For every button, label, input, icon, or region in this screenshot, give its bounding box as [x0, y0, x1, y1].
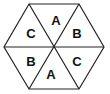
hexagon-diagram: A B C A B C — [0, 0, 110, 94]
triangle-bottom-label: A — [46, 67, 56, 82]
triangle-upper-left-label: C — [26, 26, 36, 41]
triangle-top-label: A — [51, 13, 61, 28]
triangle-lower-left-label: B — [26, 54, 35, 69]
triangle-upper-right-label: B — [72, 26, 81, 41]
triangle-lower-right-label: C — [72, 54, 82, 69]
